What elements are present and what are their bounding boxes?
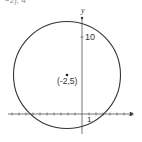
center-point-label: (-2,5): [57, 77, 77, 86]
graph-canvas: [0, 0, 142, 142]
y-axis-arrow-icon: [81, 17, 83, 19]
x-axis-label: x: [129, 110, 133, 118]
x-tick-label: 1: [87, 116, 91, 124]
y-tick-label: 10: [85, 33, 95, 42]
circle-graph-figure: −2), 4 y 10 (-2,5) 1 x: [0, 0, 142, 142]
top-text-fragment: −2), 4: [5, 0, 26, 5]
y-axis-label: y: [81, 7, 85, 15]
